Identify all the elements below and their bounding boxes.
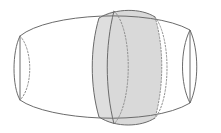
geometric-solid-figure	[0, 0, 221, 133]
figure-container	[0, 0, 221, 133]
